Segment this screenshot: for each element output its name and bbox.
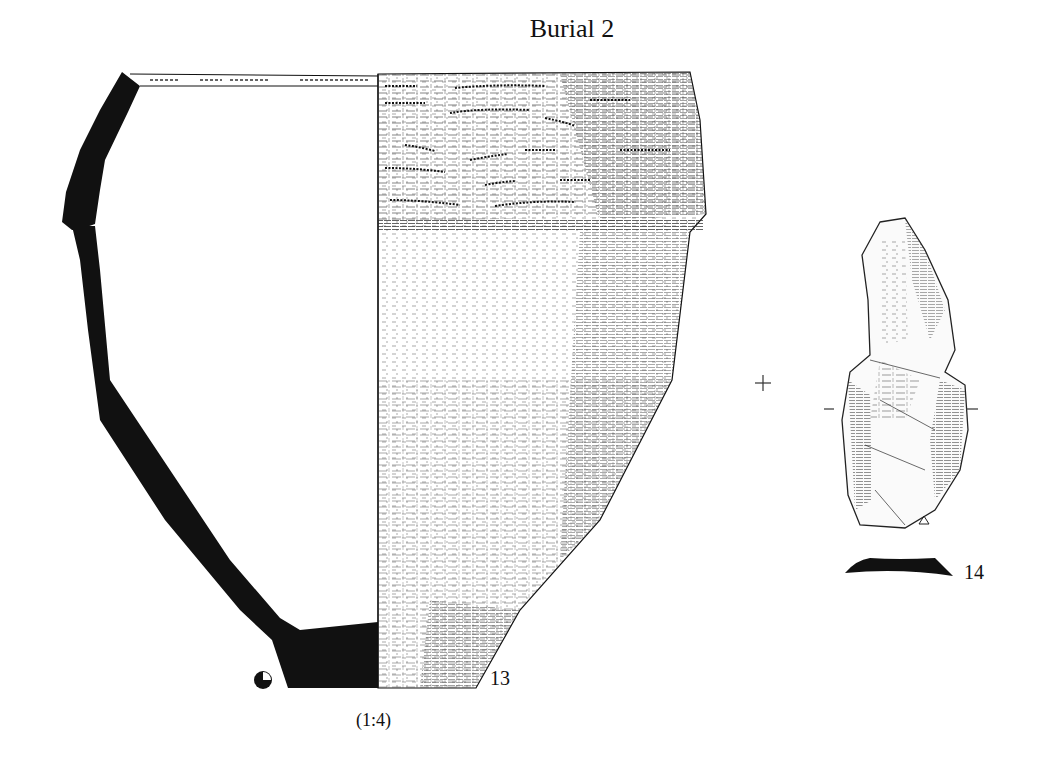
scale-label: (1:4) xyxy=(356,710,391,731)
flint-cross-section xyxy=(845,558,953,576)
vessel-exterior xyxy=(378,72,706,688)
flint-tool-drawing xyxy=(842,218,968,528)
drawing-canvas xyxy=(0,0,1044,763)
object-label-13: 13 xyxy=(490,667,510,690)
vessel-section xyxy=(62,72,378,688)
rotational-coverage-icon xyxy=(254,671,272,689)
orientation-cross-icon xyxy=(755,375,771,391)
object-label-14: 14 xyxy=(964,561,984,584)
